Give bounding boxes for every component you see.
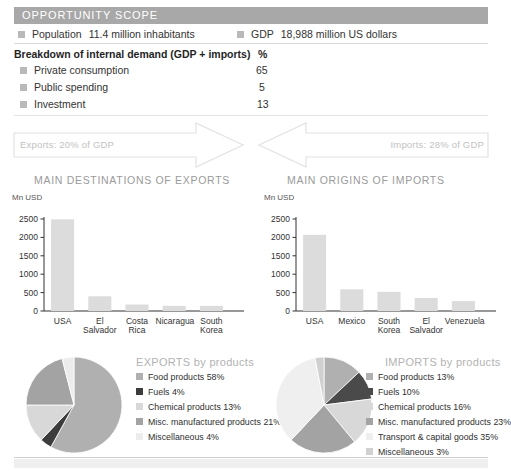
legend-item: Food products 58% [136, 372, 224, 382]
breakdown-row-private-consumption: Private consumption [20, 64, 129, 76]
breakdown-row-value: 13 [257, 98, 279, 110]
imports-bar-chart: 05001000150020002500 [262, 205, 502, 330]
scope-header-bar: OPPORTUNITY SCOPE [14, 7, 488, 24]
x-axis-category-label: South Korea [193, 317, 230, 335]
x-axis-category-label: El Salvador [408, 317, 445, 335]
legend-label: Fuels 4% [148, 387, 185, 397]
legend-swatch-icon [366, 388, 373, 395]
y-axis-tick-label: 2500 [19, 214, 38, 224]
legend-item: Chemical products 16% [366, 402, 471, 412]
bar [415, 298, 438, 311]
bar [200, 306, 223, 311]
legend-item: Fuels 10% [366, 387, 420, 397]
footer-bar [14, 459, 488, 468]
breakdown-row-label: Public spending [34, 81, 108, 93]
legend-label: Transport & capital goods 35% [378, 432, 498, 442]
legend-label: Food products 58% [148, 372, 224, 382]
legend-swatch-icon [366, 403, 373, 410]
legend-label: Fuels 10% [378, 387, 420, 397]
legend-item: Transport & capital goods 35% [366, 432, 498, 442]
x-axis-category-label: Costa Rica [118, 317, 155, 335]
y-axis-tick-label: 1000 [19, 269, 38, 279]
bar [163, 306, 186, 311]
y-axis-tick-label: 1000 [271, 269, 290, 279]
divider [14, 115, 488, 116]
y-axis-tick-label: 0 [33, 306, 38, 316]
legend-swatch-icon [366, 418, 373, 425]
legend-item: Miscellaneous 3% [366, 447, 449, 457]
footer-divider [14, 457, 488, 458]
bar [88, 296, 111, 311]
legend-item: Fuels 4% [136, 387, 185, 397]
legend-label: Chemical products 16% [378, 402, 471, 412]
bullet-square-icon [18, 31, 25, 38]
y-axis-tick-label: 500 [24, 288, 38, 298]
legend-label: Chemical products 13% [148, 402, 241, 412]
legend-swatch-icon [136, 433, 143, 440]
bar [125, 305, 148, 311]
x-axis-category-label: South Korea [370, 317, 407, 335]
legend-swatch-icon [136, 403, 143, 410]
bullet-square-icon [237, 31, 244, 38]
fact-population-label: Population [32, 28, 82, 40]
legend-swatch-icon [136, 373, 143, 380]
exports-bar-chart: 05001000150020002500 [10, 205, 250, 330]
bullet-square-icon [20, 101, 27, 108]
x-axis-category-label: Nicaragua [156, 317, 193, 326]
legend-label: Food products 13% [378, 372, 454, 382]
bullet-square-icon [20, 84, 27, 91]
legend-item: Misc. manufactured products 23% [366, 417, 511, 427]
legend-swatch-icon [366, 433, 373, 440]
x-axis-category-label: Venezuela [445, 317, 482, 326]
legend-item: Miscellaneous 4% [136, 432, 219, 442]
imports-pie-chart [274, 355, 374, 455]
breakdown-title: Breakdown of internal demand (GDP + impo… [14, 48, 250, 60]
exports-chart-title: MAIN DESTINATIONS OF EXPORTS [34, 174, 230, 186]
legend-label: Miscellaneous 4% [148, 432, 219, 442]
y-axis-tick-label: 2500 [271, 214, 290, 224]
trade-flow-arrows: Exports: 20% of GDP Imports: 28% of GDP [0, 120, 502, 170]
y-axis-tick-label: 1500 [19, 251, 38, 261]
legend-item: Chemical products 13% [136, 402, 241, 412]
breakdown-row-investment: Investment [20, 98, 85, 110]
bar [340, 289, 363, 311]
x-axis-category-label: El Salvador [81, 317, 118, 335]
legend-swatch-icon [136, 388, 143, 395]
exports-pie-chart [24, 355, 124, 455]
breakdown-row-label: Investment [34, 98, 85, 110]
exports-chart-unit-label: Mn USD [12, 193, 42, 202]
legend-swatch-icon [366, 373, 373, 380]
fact-gdp: GDP18,988 million US dollars [237, 28, 397, 40]
legend-swatch-icon [366, 448, 373, 455]
legend-label: Miscellaneous 3% [378, 447, 449, 457]
bar [452, 301, 475, 311]
bar [377, 292, 400, 311]
fact-population-value: 11.4 million inhabitants [89, 28, 195, 40]
legend-item: Misc. manufactured products 21% [136, 417, 281, 427]
y-axis-tick-label: 2000 [271, 232, 290, 242]
fact-gdp-value: 18,988 million US dollars [281, 28, 397, 40]
y-axis-tick-label: 1500 [271, 251, 290, 261]
breakdown-row-label: Private consumption [34, 64, 129, 76]
y-axis-tick-label: 0 [285, 306, 290, 316]
breakdown-row-public-spending: Public spending [20, 81, 108, 93]
page-title: OPPORTUNITY SCOPE [22, 9, 158, 21]
imports-chart-title: MAIN ORIGINS OF IMPORTS [287, 174, 445, 186]
breakdown-row-value: 5 [259, 81, 281, 93]
x-axis-category-label: USA [44, 317, 81, 326]
breakdown-row-value: 65 [256, 64, 278, 76]
breakdown-unit-header: % [258, 48, 267, 60]
y-axis-tick-label: 500 [276, 288, 290, 298]
imports-chart-unit-label: Mn USD [264, 193, 294, 202]
y-axis-tick-label: 2000 [19, 232, 38, 242]
imports-pie-title: IMPORTS by products [385, 356, 501, 368]
fact-gdp-label: GDP [251, 28, 274, 40]
bar [303, 235, 326, 311]
exports-share-label: Exports: 20% of GDP [20, 139, 114, 150]
legend-label: Misc. manufactured products 23% [378, 417, 511, 427]
imports-share-label: Imports: 28% of GDP [390, 139, 484, 150]
exports-pie-title: EXPORTS by products [136, 356, 254, 368]
bar [51, 219, 74, 311]
legend-label: Misc. manufactured products 21% [148, 417, 281, 427]
